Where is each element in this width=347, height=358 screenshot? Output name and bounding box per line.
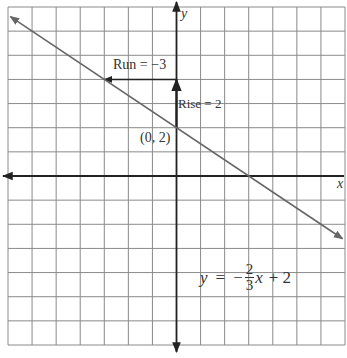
rise-label: Rise = 2 [178, 96, 221, 112]
x-axis-label: x [337, 176, 343, 192]
equation-rest: + 2 [269, 268, 291, 288]
fraction-numerator: 2 [245, 262, 255, 278]
y-axis-label: y [181, 6, 187, 22]
equation-var: x [255, 268, 263, 288]
point-label: (0, 2) [140, 130, 170, 146]
coordinate-graph [0, 0, 347, 358]
equation: y = − 2 3 x + 2 [200, 262, 291, 293]
equation-lhs: y [200, 268, 208, 288]
equation-equals: = [216, 268, 226, 288]
equation-fraction: 2 3 [245, 262, 255, 293]
run-label: Run = −3 [113, 57, 166, 73]
fraction-denominator: 3 [246, 278, 254, 293]
equation-sign: − [233, 268, 243, 288]
axes [3, 2, 344, 352]
